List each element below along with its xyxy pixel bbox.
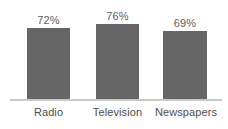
bar-value-label-newspapers: 69% — [163, 17, 207, 29]
category-label-newspapers: Newspapers — [152, 105, 220, 119]
x-axis-baseline — [10, 99, 222, 101]
bar-group-television[interactable]: 76% — [96, 0, 139, 100]
category-label-radio: Radio — [17, 105, 80, 119]
bar-rect-television[interactable] — [96, 24, 139, 100]
bar-chart: 72% 76% 69% Radio Television Newspapers — [0, 0, 228, 129]
bar-value-label-radio: 72% — [27, 14, 70, 26]
category-label-television: Television — [85, 105, 150, 119]
bar-rect-radio[interactable] — [27, 28, 70, 100]
bar-group-radio[interactable]: 72% — [27, 0, 70, 100]
category-axis-labels: Radio Television Newspapers — [0, 103, 228, 129]
bar-value-label-television: 76% — [96, 10, 139, 22]
bar-rect-newspapers[interactable] — [163, 31, 207, 100]
bar-group-newspapers[interactable]: 69% — [163, 0, 207, 100]
plot-area: 72% 76% 69% — [0, 0, 228, 100]
